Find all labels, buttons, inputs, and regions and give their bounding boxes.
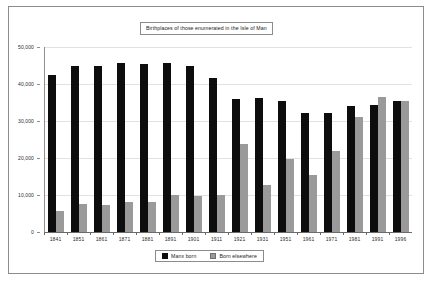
bar-group <box>389 47 412 232</box>
bar <box>232 99 240 232</box>
legend-swatch-manx-born <box>162 253 168 259</box>
legend-entry-manx-born: Manx born <box>162 253 196 259</box>
x-tick-mark <box>274 232 275 235</box>
x-tick-label: 1961 <box>297 236 320 242</box>
bar <box>194 196 202 232</box>
bar <box>309 175 317 232</box>
y-tick-mark <box>37 84 40 85</box>
bar <box>255 98 263 232</box>
x-tick-label: 1881 <box>136 236 159 242</box>
x-axis-ticks: 1841185118611871188118911901191119211931… <box>44 232 412 248</box>
x-tick-mark <box>297 232 298 235</box>
y-axis-ticks: 010,00020,00030,00040,00050,000 <box>0 47 40 232</box>
legend-label-born-elsewhere: Born elsewhere <box>219 253 256 259</box>
bar-group <box>136 47 159 232</box>
bar <box>347 106 355 232</box>
bar-group <box>113 47 136 232</box>
x-tick-label: 1841 <box>44 236 67 242</box>
x-tick-mark <box>182 232 183 235</box>
x-tick-mark <box>205 232 206 235</box>
x-tick-mark <box>159 232 160 235</box>
x-tick-label: 1871 <box>113 236 136 242</box>
x-tick-label: 1911 <box>205 236 228 242</box>
x-tick: 1861 <box>90 232 113 248</box>
x-tick-mark <box>228 232 229 235</box>
x-tick: 1841 <box>44 232 67 248</box>
bar <box>102 205 110 232</box>
y-tick-label: 0 <box>31 229 34 235</box>
bar <box>171 195 179 232</box>
bar-group <box>90 47 113 232</box>
x-tick-mark <box>113 232 114 235</box>
bar <box>217 195 225 232</box>
bar <box>94 66 102 233</box>
bar-group <box>320 47 343 232</box>
x-tick-mark <box>136 232 137 235</box>
bar-group <box>297 47 320 232</box>
bar-group <box>44 47 67 232</box>
bar <box>125 202 133 232</box>
bar-group <box>228 47 251 232</box>
bar <box>355 117 363 232</box>
x-tick: 1996 <box>389 232 412 248</box>
x-tick: 1971 <box>320 232 343 248</box>
chart-figure: Birthplaces of those enumerated in the I… <box>0 0 434 283</box>
x-tick: 1891 <box>159 232 182 248</box>
x-tick-mark <box>44 232 45 235</box>
y-tick-label: 30,000 <box>18 118 34 124</box>
x-tick-label: 1891 <box>159 236 182 242</box>
bar <box>378 97 386 232</box>
x-tick: 1991 <box>366 232 389 248</box>
bar <box>301 113 309 232</box>
x-tick-label: 1851 <box>67 236 90 242</box>
y-tick-mark <box>37 158 40 159</box>
x-tick-mark <box>320 232 321 235</box>
bar <box>140 64 148 232</box>
legend-swatch-born-elsewhere <box>210 253 216 259</box>
x-tick: 1871 <box>113 232 136 248</box>
x-tick: 1981 <box>343 232 366 248</box>
x-tick-label: 1951 <box>274 236 297 242</box>
bar <box>71 66 79 232</box>
x-tick-label: 1901 <box>182 236 205 242</box>
bar <box>240 144 248 232</box>
y-tick-mark <box>37 232 40 233</box>
x-tick: 1881 <box>136 232 159 248</box>
x-tick-mark <box>90 232 91 235</box>
x-tick-mark <box>67 232 68 235</box>
bar-group <box>182 47 205 232</box>
x-tick: 1931 <box>251 232 274 248</box>
bar <box>48 75 56 232</box>
x-tick: 1921 <box>228 232 251 248</box>
bar-group <box>251 47 274 232</box>
bar-group <box>67 47 90 232</box>
bar-group <box>159 47 182 232</box>
bar <box>56 211 64 232</box>
y-tick-label: 40,000 <box>18 81 34 87</box>
x-tick: 1851 <box>67 232 90 248</box>
bar <box>393 101 401 232</box>
y-tick-label: 20,000 <box>18 155 34 161</box>
x-tick-mark <box>251 232 252 235</box>
bar <box>286 159 294 232</box>
plot-area <box>44 47 412 232</box>
bar <box>370 105 378 232</box>
bar-groups <box>44 47 412 232</box>
bar <box>324 113 332 232</box>
x-tick-label: 1981 <box>343 236 366 242</box>
x-tick: 1961 <box>297 232 320 248</box>
x-tick-mark <box>389 232 390 235</box>
bar <box>163 63 171 232</box>
bar-group <box>274 47 297 232</box>
x-tick-label: 1921 <box>228 236 251 242</box>
bar <box>278 101 286 232</box>
bar <box>148 202 156 232</box>
bar <box>117 63 125 232</box>
bar <box>332 151 340 232</box>
bar-group <box>343 47 366 232</box>
bar <box>401 101 409 232</box>
bar <box>186 66 194 232</box>
x-tick-label: 1971 <box>320 236 343 242</box>
chart-legend: Manx born Born elsewhere <box>155 250 264 262</box>
x-tick-label: 1931 <box>251 236 274 242</box>
